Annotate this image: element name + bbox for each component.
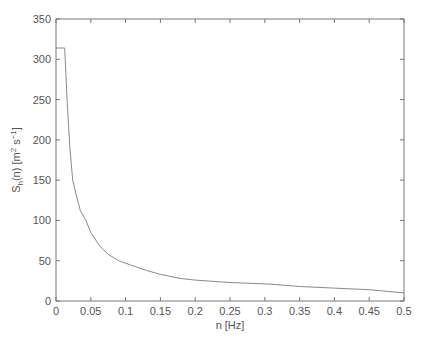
axes-frame bbox=[56, 19, 404, 301]
x-tick-label: 0.5 bbox=[396, 305, 411, 317]
y-tick-label: 250 bbox=[33, 94, 51, 106]
x-axis-label: n [Hz] bbox=[216, 319, 245, 331]
x-tick-label: 0.25 bbox=[219, 305, 240, 317]
chart: 00.050.10.150.20.250.30.350.40.450.5 050… bbox=[0, 0, 426, 345]
y-axis-ticks: 050100150200250300350 bbox=[33, 13, 404, 307]
x-tick-label: 0.15 bbox=[150, 305, 171, 317]
y-tick-label: 200 bbox=[33, 134, 51, 146]
x-tick-label: 0.1 bbox=[118, 305, 133, 317]
y-tick-label: 100 bbox=[33, 214, 51, 226]
y-tick-label: 350 bbox=[33, 13, 51, 25]
y-tick-label: 50 bbox=[39, 255, 51, 267]
ylabel-rest1: (n) [m bbox=[10, 152, 22, 181]
y-tick-label: 300 bbox=[33, 53, 51, 65]
x-tick-label: 0.05 bbox=[80, 305, 101, 317]
x-tick-label: 0.35 bbox=[289, 305, 310, 317]
x-tick-label: 0 bbox=[53, 305, 59, 317]
x-tick-label: 0.2 bbox=[188, 305, 203, 317]
x-axis-ticks: 00.050.10.150.20.250.30.350.40.450.5 bbox=[53, 19, 412, 317]
ylabel-main: S bbox=[10, 186, 22, 193]
x-tick-label: 0.3 bbox=[257, 305, 272, 317]
y-tick-label: 150 bbox=[33, 174, 51, 186]
x-tick-label: 0.45 bbox=[358, 305, 379, 317]
ylabel-rest3: ] bbox=[10, 127, 22, 130]
x-tick-label: 0.4 bbox=[327, 305, 342, 317]
y-tick-label: 0 bbox=[45, 295, 51, 307]
y-axis-label: Sh(n) [m2 s−1] bbox=[9, 127, 25, 193]
series-line bbox=[56, 48, 404, 293]
